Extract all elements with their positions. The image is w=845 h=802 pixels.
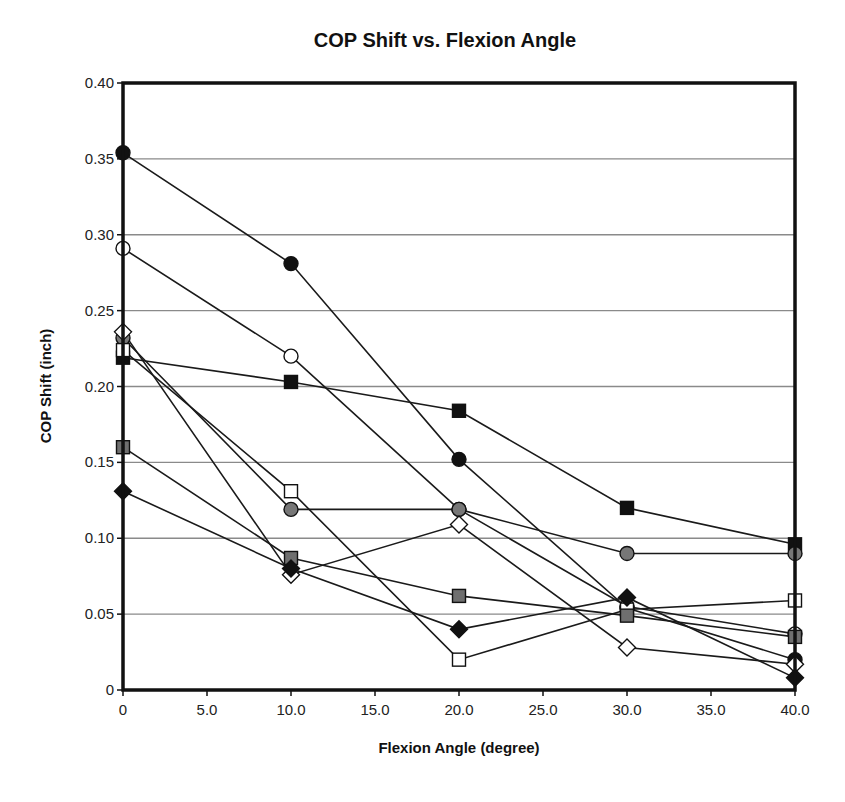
y-axis-label: COP Shift (inch) — [37, 329, 54, 444]
chart: COP Shift vs. Flexion Angle 00.050.100.1… — [0, 0, 845, 802]
x-tick-label: 30.0 — [612, 701, 641, 718]
circle-marker — [284, 257, 298, 271]
x-tick-label: 5.0 — [197, 701, 218, 718]
y-tick-label: 0 — [106, 681, 114, 698]
x-tick-label: 10.0 — [276, 701, 305, 718]
y-tick-label: 0.40 — [85, 74, 114, 91]
y-tick-label: 0.30 — [85, 226, 114, 243]
circle-marker — [452, 502, 466, 516]
y-tick-label: 0.15 — [85, 453, 114, 470]
square-marker — [453, 653, 466, 666]
square-marker — [453, 404, 466, 417]
circle-marker — [620, 546, 634, 560]
square-marker — [453, 589, 466, 602]
diamond-marker — [619, 639, 636, 656]
square-marker — [285, 375, 298, 388]
y-tick-label: 0.35 — [85, 150, 114, 167]
y-tick-label: 0.20 — [85, 378, 114, 395]
series-markers-open-circle — [116, 241, 802, 640]
plot-series — [115, 146, 804, 687]
x-axis-ticks: 05.010.015.020.025.030.035.040.0 — [119, 690, 810, 718]
x-tick-label: 20.0 — [444, 701, 473, 718]
x-tick-label: 0 — [119, 701, 127, 718]
square-marker — [621, 609, 634, 622]
circle-marker — [284, 502, 298, 516]
circle-marker — [452, 452, 466, 466]
x-tick-label: 15.0 — [360, 701, 389, 718]
square-marker — [621, 501, 634, 514]
x-axis-label: Flexion Angle (degree) — [378, 739, 539, 756]
y-tick-label: 0.25 — [85, 302, 114, 319]
diamond-marker — [451, 516, 468, 533]
y-axis-ticks: 00.050.100.150.200.250.300.350.40 — [85, 74, 123, 698]
y-tick-label: 0.05 — [85, 605, 114, 622]
x-tick-label: 25.0 — [528, 701, 557, 718]
square-marker — [285, 485, 298, 498]
chart-title: COP Shift vs. Flexion Angle — [314, 29, 576, 51]
circle-marker — [284, 349, 298, 363]
gridlines — [123, 159, 795, 614]
x-tick-label: 40.0 — [780, 701, 809, 718]
y-tick-label: 0.10 — [85, 529, 114, 546]
series-line-gray-square — [123, 447, 795, 637]
x-tick-label: 35.0 — [696, 701, 725, 718]
diamond-marker — [451, 621, 468, 638]
